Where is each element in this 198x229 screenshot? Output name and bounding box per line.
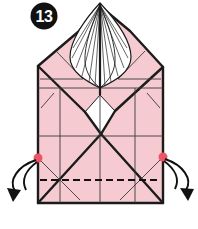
origami-step-figure: 13 <box>0 0 198 229</box>
fold-arrow-left-icon <box>7 160 37 202</box>
fold-arrow-right-icon <box>164 159 194 201</box>
step-number: 13 <box>36 8 53 25</box>
origami-diagram: 13 <box>0 0 198 229</box>
step-number-badge: 13 <box>31 3 58 30</box>
